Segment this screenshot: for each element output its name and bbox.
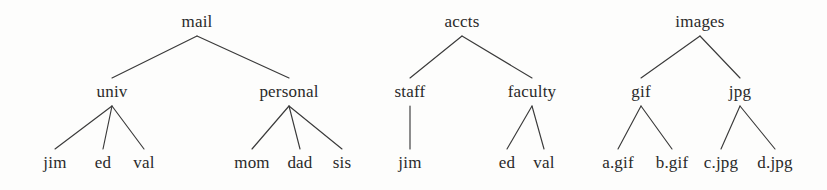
tree-node-mail-mom: mom (234, 153, 270, 173)
tree-node-accts-val: val (533, 153, 554, 173)
tree-node-faculty: faculty (508, 82, 557, 102)
tree-node-gif: gif (631, 82, 650, 102)
tree-node-mail: mail (181, 12, 212, 32)
tree-edge (740, 106, 775, 149)
tree-node-accts-ed: ed (499, 153, 515, 173)
tree-edge (197, 36, 289, 78)
tree-edge (289, 106, 300, 149)
tree-edge (641, 36, 700, 78)
directory-tree-diagram: mailunivpersonaljimedvalmomdadsisacctsst… (0, 0, 827, 190)
tree-node-b-gif: b.gif (656, 153, 689, 173)
tree-edge (641, 106, 672, 149)
tree-node-d-jpg: d.jpg (757, 153, 792, 173)
tree-node-jpg: jpg (729, 82, 751, 102)
tree-edge (252, 106, 289, 149)
tree-edge (721, 106, 740, 149)
tree-node-accts-jim: jim (398, 153, 421, 173)
tree-edge (289, 106, 342, 149)
tree-edge (55, 106, 112, 149)
tree-edge (700, 36, 740, 78)
tree-node-mail-jim: jim (43, 153, 66, 173)
tree-edge (112, 36, 197, 78)
tree-node-staff: staff (395, 82, 426, 102)
tree-node-mail-dad: dad (287, 153, 312, 173)
tree-node-c-jpg: c.jpg (704, 153, 739, 173)
tree-node-personal: personal (259, 82, 318, 102)
tree-node-a-gif: a.gif (602, 153, 634, 173)
tree-edge (462, 36, 532, 78)
tree-edge (532, 106, 544, 149)
tree-node-images: images (675, 12, 724, 32)
tree-node-mail-sis: sis (333, 153, 352, 173)
tree-node-univ: univ (96, 82, 127, 102)
tree-edge (112, 106, 144, 149)
tree-node-mail-ed: ed (95, 153, 111, 173)
tree-node-accts: accts (445, 12, 480, 32)
tree-edge (410, 36, 462, 78)
tree-edge (618, 106, 641, 149)
tree-node-mail-val: val (133, 153, 154, 173)
tree-edge (507, 106, 532, 149)
